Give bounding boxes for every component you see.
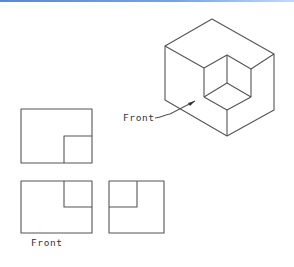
- top-view: [21, 109, 92, 163]
- arrowhead-icon: [188, 101, 195, 106]
- front-leader: [155, 101, 195, 118]
- isometric-view: [165, 19, 274, 136]
- front-view: [21, 181, 92, 233]
- drawing-canvas: Front Front: [0, 0, 294, 267]
- isometric-front-label: Front: [123, 112, 155, 123]
- front-view-label: Front: [31, 237, 63, 248]
- side-view: [109, 181, 164, 233]
